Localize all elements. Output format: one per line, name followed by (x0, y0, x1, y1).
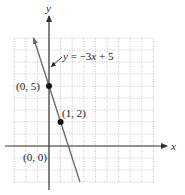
equation-eq: = −3 (68, 50, 92, 62)
chart-labels: y x y = −3x + 5 (0, 5) (1, 2) (0, 0) (16, 2, 176, 164)
point-label-0-5: (0, 5) (16, 80, 40, 93)
x-axis-label: x (170, 140, 176, 152)
axes (5, 16, 167, 190)
data-point (58, 119, 64, 125)
equation-label: y = −3x + 5 (62, 50, 114, 62)
point-label-1-2: (1, 2) (62, 107, 86, 120)
data-point (46, 83, 52, 89)
origin-label: (0, 0) (23, 151, 47, 164)
line-chart: y x y = −3x + 5 (0, 5) (1, 2) (0, 0) (0, 0, 185, 195)
equation-rest: + 5 (96, 50, 114, 62)
y-axis-label: y (45, 2, 51, 14)
